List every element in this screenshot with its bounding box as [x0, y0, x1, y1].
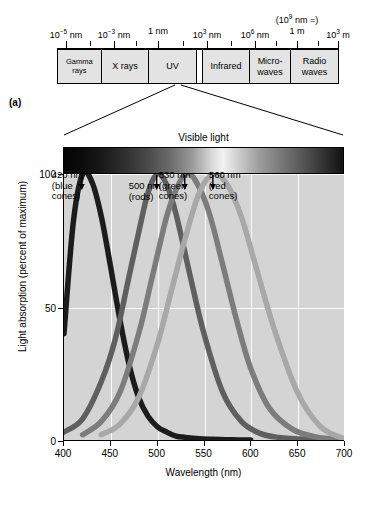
x-tick-label-700: 700 [336, 448, 353, 459]
em-band-radio-waves: Radio waves [291, 50, 338, 83]
em-spectrum-bar-wrapper: GammaraysX raysUVInfraredMicro-wavesRadi… [57, 41, 339, 85]
em-minor-tick-4 [276, 41, 277, 46]
x-axis-ticks [63, 441, 345, 447]
figure-electromagnetic-spectrum-and-photopigment-absorption: 10−5 nm10−3 nm1 nm103 nm106 nm1 m103 m(1… [0, 0, 367, 530]
em-band-gamma-rays: Gammarays [58, 50, 102, 83]
em-band-bar: GammaraysX raysUVInfraredMicro-wavesRadi… [57, 49, 339, 84]
em-minor-tick-1 [136, 41, 137, 46]
em-minor-tick-3 [231, 41, 232, 46]
em-tick-label-2: 1 nm [148, 26, 168, 37]
x-tick-600 [250, 441, 251, 446]
x-tick-400 [63, 441, 64, 446]
peak-note-rods: 500 nm(rods) [129, 181, 161, 202]
y-tick-label-50: 50 [45, 302, 56, 313]
x-tick-label-650: 650 [289, 448, 306, 459]
em-tick-label-5: 1 m [289, 26, 304, 37]
x-tick-550 [204, 441, 205, 446]
em-scale-tick-labels: 10−5 nm10−3 nm1 nm103 nm106 nm1 m103 m(1… [0, 0, 367, 40]
x-tick-label-600: 600 [242, 448, 259, 459]
panel-b-absorption-chart: Visible light Light absorption (percent … [0, 128, 367, 530]
x-axis-tick-labels: 400450500550600650700 [0, 448, 367, 462]
x-axis-title: Wavelength (nm) [63, 467, 344, 478]
em-band-microwaves: Micro-waves [250, 50, 291, 83]
em-tick-label-0: 10−5 nm [50, 26, 82, 41]
x-tick-label-450: 450 [101, 448, 118, 459]
em-minor-tick-5 [318, 41, 319, 46]
em-tick-label-3: 103 nm [193, 26, 222, 41]
em-band-infrared: Infrared [203, 50, 251, 83]
y-tick-label-0: 0 [50, 436, 56, 447]
em-paren-note: (109 nm =) [276, 11, 318, 26]
peak-annotations: 420 nm(bluecones)500 nm(rods)530 nm(gree… [0, 170, 367, 240]
em-tick-label-4: 106 nm [241, 26, 270, 41]
em-minor-tick-0 [90, 41, 91, 46]
x-tick-650 [297, 441, 298, 446]
x-tick-700 [344, 441, 345, 446]
x-tick-label-500: 500 [148, 448, 165, 459]
peak-note-blue-cones: 420 nm(bluecones) [52, 170, 84, 202]
em-band-x-rays: X rays [102, 50, 150, 83]
visible-light-title: Visible light [63, 132, 344, 143]
x-tick-label-550: 550 [195, 448, 212, 459]
x-tick-450 [110, 441, 111, 446]
x-tick-500 [157, 441, 158, 446]
em-tick-label-1: 10−3 nm [98, 26, 130, 41]
x-tick-label-400: 400 [55, 448, 72, 459]
em-minor-tick-2 [183, 41, 184, 46]
em-tick-label-6: 103 m [326, 26, 350, 41]
peak-note-red-cones: 560 nm(redcones) [209, 170, 241, 202]
peak-note-green-cones: 530 nm(greencones) [159, 170, 191, 202]
em-band-uv: UV [149, 50, 197, 83]
